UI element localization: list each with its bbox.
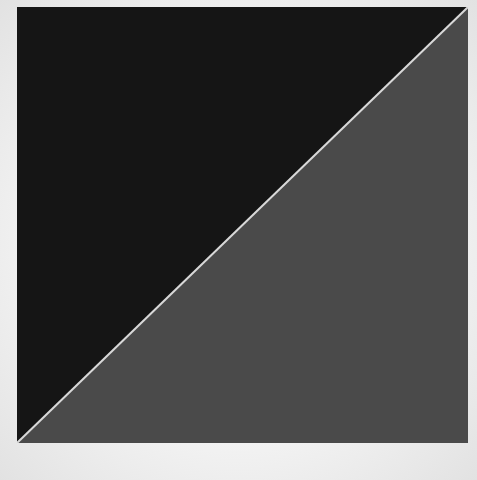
artwork-square: [17, 7, 468, 443]
artwork-svg: [17, 7, 468, 443]
